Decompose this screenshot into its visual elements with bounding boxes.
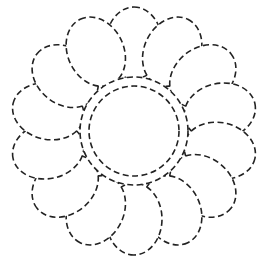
rosette-drawing (0, 0, 266, 257)
petal-ring (7, 7, 261, 255)
